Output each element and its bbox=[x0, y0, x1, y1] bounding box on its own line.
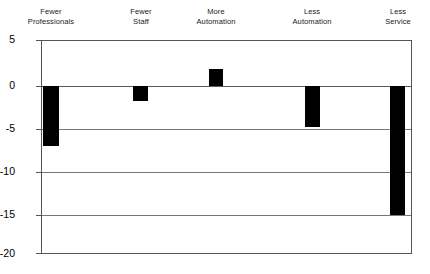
category-label-fewer-staff: Fewer Staff bbox=[101, 7, 181, 26]
y-tick-label-0: 0 bbox=[0, 80, 15, 91]
bar-fewer-professionals bbox=[43, 86, 59, 146]
gridline--15 bbox=[42, 215, 411, 216]
bar-less-service bbox=[390, 86, 405, 215]
y-tick-label--10: -10 bbox=[0, 166, 15, 177]
category-label-less-automation: Less Automation bbox=[272, 7, 352, 26]
gridline-0 bbox=[42, 86, 411, 87]
bar-more-automation bbox=[209, 69, 223, 86]
gridline--5 bbox=[42, 129, 411, 130]
bar-chart: Fewer Professionals Fewer Staff More Aut… bbox=[0, 0, 430, 274]
bar-less-automation bbox=[305, 86, 320, 127]
y-tick-label--15: -15 bbox=[0, 209, 15, 220]
category-label-more-automation: More Automation bbox=[176, 7, 256, 26]
bar-fewer-staff bbox=[133, 86, 148, 101]
category-label-fewer-professionals: Fewer Professionals bbox=[11, 7, 91, 26]
plot-area bbox=[41, 40, 412, 254]
category-label-less-service: Less Service bbox=[358, 7, 430, 26]
y-tick-label--20: -20 bbox=[0, 248, 15, 259]
gridline--10 bbox=[42, 172, 411, 173]
y-tick-label-5: 5 bbox=[0, 34, 15, 45]
y-tick-label--5: -5 bbox=[0, 123, 15, 134]
